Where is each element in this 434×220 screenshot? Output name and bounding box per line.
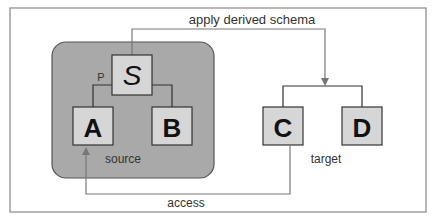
- apply-derived-schema-label: apply derived schema: [189, 12, 316, 27]
- node-s-label: S: [123, 60, 142, 91]
- node-c-label: C: [274, 113, 293, 143]
- node-d-label: D: [353, 113, 372, 143]
- edge-label-p: P: [97, 71, 104, 83]
- node-b-label: B: [163, 113, 182, 143]
- access-label: access: [167, 196, 204, 210]
- node-a-label: A: [84, 113, 103, 143]
- source-label: source: [105, 152, 141, 166]
- schema-diagram: apply derived schema P S A B source C D …: [0, 0, 434, 220]
- target-label: target: [311, 152, 342, 166]
